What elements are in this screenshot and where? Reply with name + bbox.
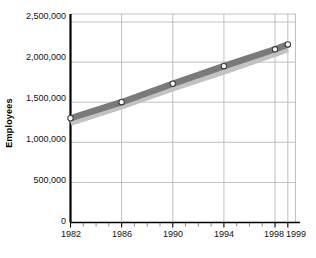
series-lower-band [71,49,288,123]
data-marker-1986 [119,100,124,105]
data-marker-1994 [221,63,226,68]
upper-band-line [71,44,288,118]
vertical-gridlines [71,14,296,223]
series-upper-band [71,44,288,118]
data-marker-1999 [285,42,290,47]
axis-lines [70,14,300,223]
plot-area [0,0,316,258]
data-marker-1982 [68,116,73,121]
data-marker-1990 [170,81,175,86]
lower-band-line [71,49,288,123]
employees-line-chart: Employees 0 500,000 1,000,000 1,500,000 … [0,0,316,258]
horizontal-gridlines [71,22,296,182]
data-marker-1998 [272,47,277,52]
